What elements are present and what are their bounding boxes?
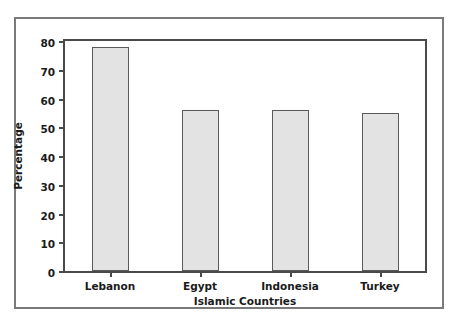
bar-chart-figure: 01020304050607080 Percentage Islamic Cou…	[0, 0, 462, 327]
y-axis-tick-label: 0	[48, 268, 55, 279]
y-axis-tick: 80	[59, 41, 65, 43]
y-axis-title: Percentage	[13, 122, 24, 190]
x-axis-tick	[380, 271, 382, 277]
x-axis-tick	[200, 271, 202, 277]
x-axis-tick	[290, 271, 292, 277]
bar	[182, 110, 219, 271]
x-axis-category-label: Indonesia	[261, 281, 319, 292]
plot-area-frame: 01020304050607080	[63, 39, 427, 273]
y-axis-tick: 40	[59, 156, 65, 158]
x-axis-category-label: Egypt	[183, 281, 217, 292]
y-axis-tick-label: 60	[40, 95, 55, 106]
y-axis-tick-label: 10	[40, 239, 55, 250]
x-axis-category-label: Turkey	[360, 281, 399, 292]
y-axis-tick-label: 40	[40, 153, 55, 164]
bar	[272, 110, 309, 271]
y-axis-tick: 20	[59, 214, 65, 216]
x-axis-title: Islamic Countries	[63, 296, 427, 307]
y-axis-tick-label: 30	[40, 182, 55, 193]
x-axis-tick	[110, 271, 112, 277]
y-axis-tick: 10	[59, 242, 65, 244]
x-axis-category-label: Lebanon	[85, 281, 136, 292]
y-axis-tick: 50	[59, 127, 65, 129]
bar	[362, 113, 399, 271]
y-axis-tick: 0	[59, 271, 65, 273]
y-axis-tick: 70	[59, 70, 65, 72]
bar	[92, 47, 129, 271]
y-axis-tick-label: 50	[40, 124, 55, 135]
plot-inner-area: 01020304050607080	[65, 41, 425, 271]
y-axis-tick-label: 70	[40, 67, 55, 78]
y-axis-tick-label: 20	[40, 210, 55, 221]
y-axis-tick: 30	[59, 185, 65, 187]
y-axis-tick-label: 80	[40, 38, 55, 49]
y-axis-tick: 60	[59, 99, 65, 101]
